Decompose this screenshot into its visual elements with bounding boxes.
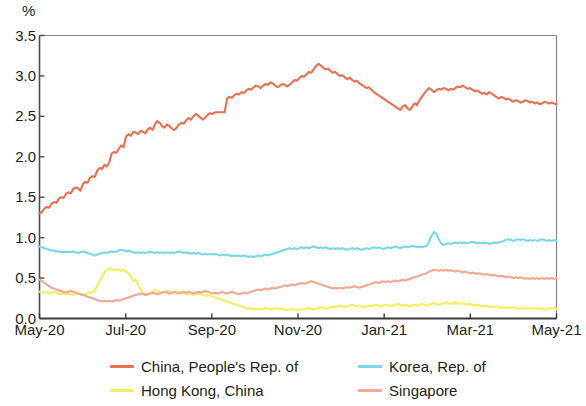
- series-line: [40, 64, 557, 214]
- legend-label: Singapore: [389, 382, 457, 399]
- axes-frame: [40, 36, 557, 319]
- x-tick-label: Mar-21: [430, 322, 510, 338]
- x-tick-label: May-20: [0, 322, 80, 338]
- series-line: [40, 232, 557, 257]
- series-line: [40, 268, 557, 310]
- legend-swatch-icon: [110, 365, 134, 368]
- legend-label: Korea, Rep. of: [389, 358, 486, 375]
- x-tick-label: Nov-20: [258, 322, 338, 338]
- legend-swatch-icon: [110, 389, 134, 392]
- data-series-group: [40, 64, 557, 311]
- legend-entry: Hong Kong, China: [110, 382, 358, 399]
- x-tick-label: May-21: [517, 322, 586, 338]
- legend-label: Hong Kong, China: [141, 382, 264, 399]
- x-tick-label: Jul-20: [86, 322, 166, 338]
- legend-swatch-icon: [358, 389, 382, 392]
- legend-label: China, People's Rep. of: [141, 358, 298, 375]
- x-tick-label: Sep-20: [172, 322, 252, 338]
- legend-entry: Korea, Rep. of: [358, 358, 530, 375]
- legend-entry: China, People's Rep. of: [110, 358, 358, 375]
- legend-swatch-icon: [358, 365, 382, 368]
- series-line: [40, 270, 557, 302]
- x-tick-label: Jan-21: [344, 322, 424, 338]
- chart-legend: China, People's Rep. ofKorea, Rep. ofHon…: [110, 354, 530, 402]
- legend-entry: Singapore: [358, 382, 530, 399]
